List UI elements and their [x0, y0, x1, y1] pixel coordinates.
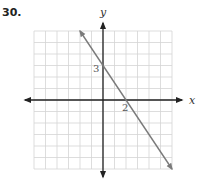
x-axis-label: x: [189, 94, 196, 107]
coordinate-plane: x y 3 2: [0, 0, 207, 187]
y-axis-label: y: [99, 6, 107, 19]
axes: [25, 23, 182, 177]
x-intercept-label: 2: [122, 102, 128, 113]
y-intercept-label: 3: [93, 63, 99, 74]
